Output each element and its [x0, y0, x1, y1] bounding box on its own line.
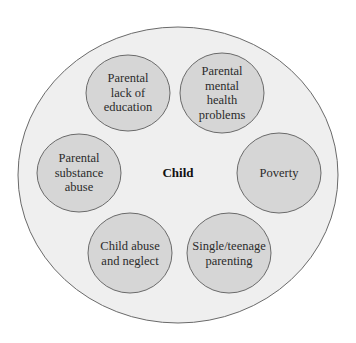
factor-label: Parental substance abuse — [55, 151, 104, 195]
factor-label: Parental mental health problems — [199, 64, 246, 122]
factor-label: Single/teenage parenting — [192, 239, 266, 268]
child-risk-factors-diagram: Parental lack of educationParental menta… — [0, 0, 356, 343]
factor-label: Parental lack of education — [104, 71, 153, 115]
center-label-child: Child — [162, 166, 193, 181]
factor-label: Poverty — [260, 166, 299, 181]
factor-label: Child abuse and neglect — [100, 239, 159, 268]
